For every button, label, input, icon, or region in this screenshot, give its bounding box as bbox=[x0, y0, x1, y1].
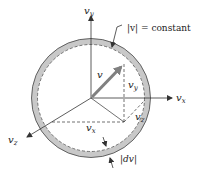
vz-axis-label: vz bbox=[8, 134, 18, 147]
vy-component-label: vy bbox=[128, 79, 139, 92]
velocity-shell-diagram: vy vx vz v vy vz vx |v| = constant |dv| bbox=[0, 0, 209, 179]
velocity-vector-label: v bbox=[97, 69, 103, 80]
vy-axis-label: vy bbox=[84, 5, 95, 18]
vx-axis-label: vx bbox=[176, 92, 186, 105]
vx-component-label: vx bbox=[86, 122, 96, 135]
projection-line bbox=[91, 98, 124, 122]
constant-label: |v| = constant bbox=[127, 23, 191, 34]
dv-label: |dv| bbox=[120, 154, 137, 165]
